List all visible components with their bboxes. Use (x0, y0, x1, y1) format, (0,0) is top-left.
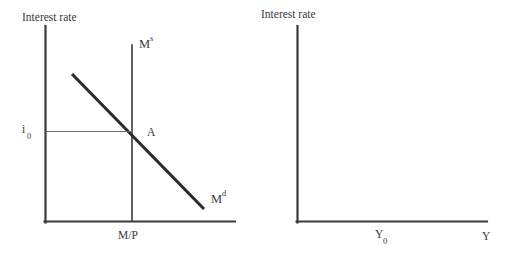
money-demand-label-superscript: d (222, 188, 227, 198)
economics-diagram: Interest rate M s M d i 0 A (0, 0, 516, 257)
interest-rate-tick-subscript: 0 (27, 131, 31, 141)
right-y-axis-title: Interest rate (261, 8, 316, 20)
right-x-axis-title: Y (482, 230, 491, 242)
money-quantity-tick-label: M/P (118, 229, 138, 241)
right-panel: Interest rate Y 0 Y (261, 8, 491, 246)
interest-rate-tick-base: i (22, 123, 25, 135)
output-tick-subscript: 0 (383, 236, 387, 246)
money-demand-curve (72, 74, 204, 209)
money-demand-label-base: M (211, 192, 222, 206)
left-y-axis-title: Interest rate (22, 11, 77, 23)
output-tick-label: Y 0 (375, 228, 387, 246)
interest-rate-tick-label: i 0 (22, 123, 31, 141)
money-supply-label-superscript: s (150, 33, 153, 43)
figure-canvas: Interest rate M s M d i 0 A (0, 0, 516, 257)
money-demand-label: M d (211, 188, 227, 206)
equilibrium-point-label: A (147, 126, 156, 138)
money-supply-label-base: M (139, 37, 150, 51)
money-supply-label: M s (139, 33, 153, 51)
left-panel: Interest rate M s M d i 0 A (22, 11, 235, 241)
